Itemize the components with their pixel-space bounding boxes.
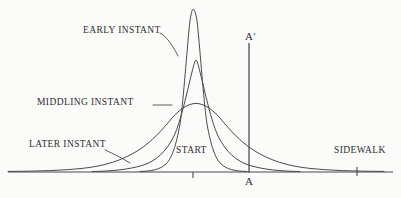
label-a: A [245,176,253,187]
label-later-instant: LATER INSTANT [29,140,106,150]
leader-early-instant [160,33,178,56]
label-sidewalk: SIDEWALK [334,146,386,156]
label-start: START [176,146,207,156]
label-middling-instant: MIDDLING INSTANT [37,98,134,108]
curve-later-instant [8,103,384,171]
diffusion-curves-figure: EARLY INSTANT MIDDLING INSTANT LATER INS… [0,0,401,198]
label-a-prime: A′ [245,31,256,42]
label-early-instant: EARLY INSTANT [83,26,161,36]
